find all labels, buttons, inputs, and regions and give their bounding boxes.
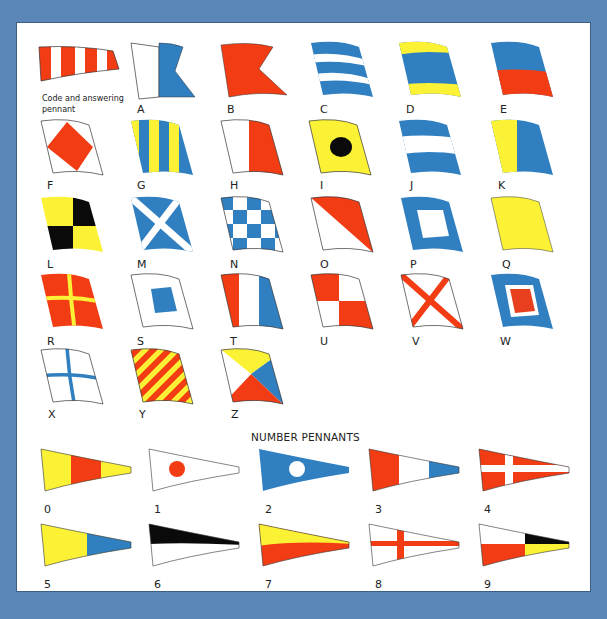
pennant-6-label: 6 [154, 578, 161, 591]
flag-o [309, 196, 377, 256]
flag-e-label: E [500, 103, 507, 116]
pennant-0 [39, 447, 135, 495]
flag-p [399, 196, 467, 256]
flag-v-label: V [412, 335, 420, 348]
flag-x [39, 348, 107, 408]
flag-i [307, 119, 375, 179]
pennant-3 [367, 447, 463, 495]
flag-l-label: L [47, 258, 53, 271]
flag-m-label: M [137, 258, 147, 271]
flag-u-label: U [320, 335, 328, 348]
flag-s [129, 273, 197, 333]
pennant-9 [477, 522, 573, 570]
pennant-7 [257, 522, 353, 570]
flag-t [219, 273, 287, 333]
flag-u [309, 273, 377, 333]
flag-y [129, 348, 197, 408]
flag-n [219, 196, 287, 256]
flag-r [39, 273, 107, 333]
flag-m [129, 196, 197, 256]
pennant-8 [367, 522, 463, 570]
flag-e [489, 41, 557, 101]
pennant-4-label: 4 [484, 503, 491, 516]
flag-b-label: B [227, 103, 235, 116]
flag-h-label: H [230, 179, 239, 192]
flag-b [219, 41, 291, 105]
flag-z-label: Z [231, 408, 239, 421]
flag-i-label: I [320, 179, 324, 192]
pennant-1 [147, 447, 243, 495]
pennant-5 [39, 522, 135, 570]
flag-g [129, 119, 197, 179]
flag-chart-panel: Code and answering pennant A B C D [16, 22, 591, 592]
flag-g-label: G [137, 179, 146, 192]
pennant-7-label: 7 [265, 578, 272, 591]
pennant-5-label: 5 [44, 578, 51, 591]
pennant-6 [147, 522, 243, 570]
flag-x-label: X [48, 408, 56, 421]
pennant-9-label: 9 [484, 578, 491, 591]
flag-q-label: Q [502, 258, 511, 271]
flag-h [219, 119, 287, 179]
pennant-2-label: 2 [265, 503, 272, 516]
flag-f [39, 119, 107, 179]
flag-q [489, 196, 557, 256]
flag-w [489, 273, 557, 333]
code-pennant-caption: Code and answering pennant [42, 93, 132, 115]
pennant-2 [257, 447, 353, 495]
flag-a [129, 41, 199, 105]
flag-d-label: D [406, 103, 415, 116]
flag-p-label: P [410, 258, 417, 271]
code-pennant-flag [37, 43, 121, 83]
flag-n-label: N [230, 258, 239, 271]
flag-y-label: Y [139, 408, 146, 421]
flag-f-label: F [47, 179, 54, 192]
flag-z [219, 348, 287, 408]
pennant-4 [477, 447, 573, 495]
flag-o-label: O [320, 258, 329, 271]
pennant-8-label: 8 [375, 578, 382, 591]
flag-w-label: W [500, 335, 511, 348]
pennant-0-label: 0 [44, 503, 51, 516]
flag-s-label: S [137, 335, 144, 348]
flag-j [397, 119, 465, 179]
flag-k [489, 119, 557, 179]
flag-t-label: T [230, 335, 237, 348]
flag-r-label: R [47, 335, 55, 348]
flag-d [397, 41, 465, 101]
pennant-3-label: 3 [375, 503, 382, 516]
pennant-1-label: 1 [154, 503, 161, 516]
flag-c [309, 41, 377, 101]
flag-a-label: A [137, 103, 145, 116]
flag-j-label: J [410, 179, 414, 192]
flag-l [39, 196, 107, 256]
flag-k-label: K [498, 179, 506, 192]
flag-c-label: C [320, 103, 328, 116]
number-pennants-title: NUMBER PENNANTS [251, 431, 360, 443]
flag-v [399, 273, 467, 333]
